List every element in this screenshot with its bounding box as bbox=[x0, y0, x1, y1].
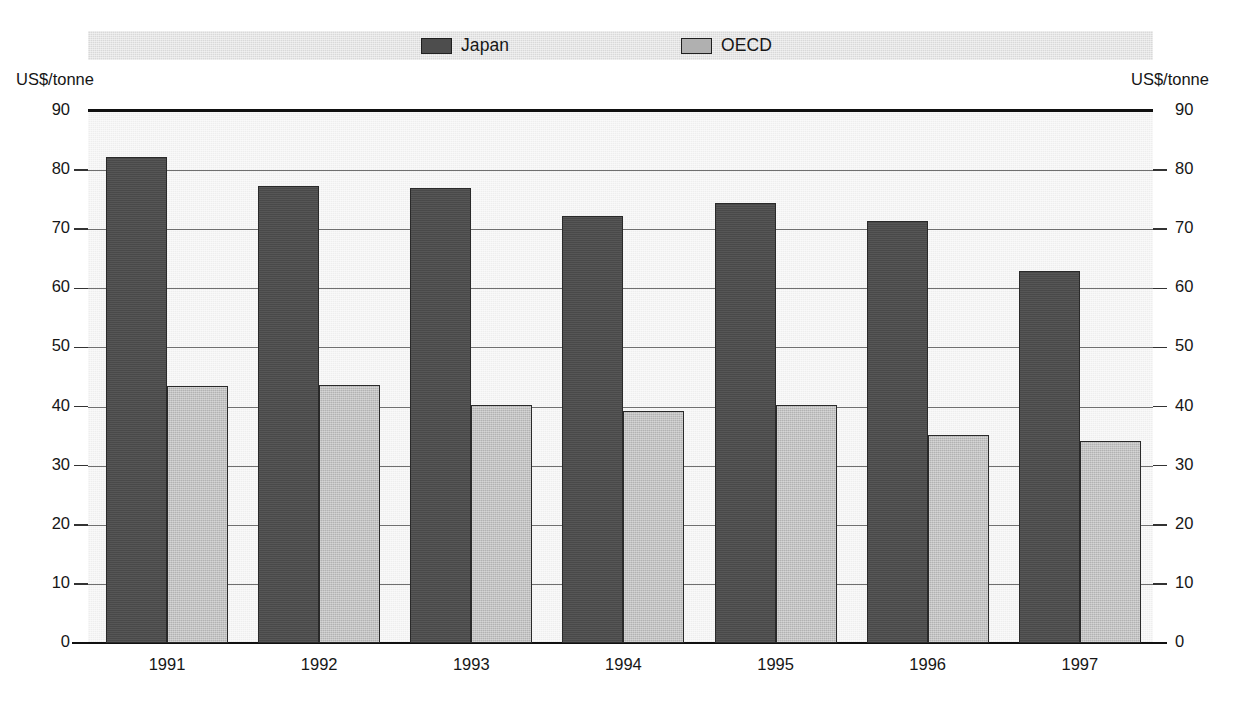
left-axis-tick bbox=[74, 524, 88, 526]
right-axis-tick-label: 20 bbox=[1175, 514, 1221, 533]
right-axis-tick bbox=[1153, 583, 1167, 585]
left-axis-tick bbox=[74, 169, 88, 171]
left-axis-tick-label: 30 bbox=[24, 455, 70, 474]
bar-oecd-1995 bbox=[776, 405, 837, 643]
bar-japan-1993 bbox=[410, 188, 471, 643]
left-axis-tick-label: 60 bbox=[24, 277, 70, 296]
legend-swatch-japan-icon bbox=[421, 38, 452, 54]
left-axis-tick-label: 20 bbox=[24, 514, 70, 533]
left-axis-tick-label: 10 bbox=[24, 573, 70, 592]
right-axis-tick bbox=[1153, 169, 1167, 171]
left-axis-tick bbox=[74, 465, 88, 467]
bar-japan-1997 bbox=[1019, 271, 1080, 643]
right-axis-tick bbox=[1153, 347, 1167, 349]
legend-swatch-oecd-icon bbox=[681, 38, 712, 54]
bar-oecd-1993 bbox=[471, 405, 532, 643]
right-axis-tick bbox=[1153, 288, 1167, 290]
right-axis-tick bbox=[1153, 465, 1167, 467]
right-axis-tick-label: 40 bbox=[1175, 396, 1221, 415]
bar-japan-1996 bbox=[867, 221, 928, 643]
left-axis-tick bbox=[74, 288, 88, 290]
right-axis-tick-label: 60 bbox=[1175, 277, 1221, 296]
right-axis-tick bbox=[1153, 524, 1167, 526]
gridline bbox=[88, 170, 1153, 171]
left-axis-tick bbox=[74, 406, 88, 408]
right-axis-tick-label: 90 bbox=[1175, 100, 1221, 119]
bar-japan-1995 bbox=[715, 203, 776, 643]
bar-japan-1994 bbox=[562, 216, 623, 643]
legend-item-oecd: OECD bbox=[681, 31, 772, 60]
x-axis-label-1992: 1992 bbox=[274, 655, 364, 674]
right-axis-tick-label: 30 bbox=[1175, 455, 1221, 474]
left-axis-tick-label: 80 bbox=[24, 159, 70, 178]
chart-legend: Japan OECD bbox=[88, 31, 1153, 60]
left-axis-tick-label: 70 bbox=[24, 218, 70, 237]
right-axis-unit-label: US$/tonne bbox=[1131, 70, 1209, 89]
bar-oecd-1994 bbox=[623, 411, 684, 643]
right-axis-tick-label: 70 bbox=[1175, 218, 1221, 237]
right-axis-tick bbox=[1153, 406, 1167, 408]
legend-item-japan: Japan bbox=[421, 31, 509, 60]
plot-top-rule bbox=[88, 109, 1153, 112]
bar-oecd-1991 bbox=[167, 386, 228, 643]
left-axis-tick-label: 90 bbox=[24, 100, 70, 119]
right-axis-tick-label: 80 bbox=[1175, 159, 1221, 178]
legend-label-japan: Japan bbox=[461, 35, 509, 56]
right-axis-tick-label: 10 bbox=[1175, 573, 1221, 592]
x-axis-label-1991: 1991 bbox=[122, 655, 212, 674]
left-axis-tick-label: 0 bbox=[24, 632, 70, 651]
bar-chart: Japan OECD US$/tonne US$/tonne 909080807… bbox=[0, 0, 1253, 716]
legend-label-oecd: OECD bbox=[721, 35, 772, 56]
left-axis-unit-label: US$/tonne bbox=[16, 70, 94, 89]
x-axis-label-1996: 1996 bbox=[883, 655, 973, 674]
x-axis-label-1995: 1995 bbox=[731, 655, 821, 674]
bar-japan-1992 bbox=[258, 186, 319, 643]
x-axis-label-1997: 1997 bbox=[1035, 655, 1125, 674]
bar-oecd-1992 bbox=[319, 385, 380, 643]
left-axis-tick bbox=[74, 583, 88, 585]
left-axis-tick-label: 50 bbox=[24, 336, 70, 355]
left-axis-tick bbox=[74, 228, 88, 230]
bar-oecd-1996 bbox=[928, 435, 989, 643]
right-axis-tick-label: 0 bbox=[1175, 632, 1221, 651]
right-axis-tick bbox=[1153, 228, 1167, 230]
right-axis-tick-label: 50 bbox=[1175, 336, 1221, 355]
bar-japan-1991 bbox=[106, 157, 167, 643]
left-axis-tick bbox=[74, 347, 88, 349]
bar-oecd-1997 bbox=[1080, 441, 1141, 643]
left-axis-tick-label: 40 bbox=[24, 396, 70, 415]
x-axis-label-1993: 1993 bbox=[426, 655, 516, 674]
x-axis-label-1994: 1994 bbox=[578, 655, 668, 674]
